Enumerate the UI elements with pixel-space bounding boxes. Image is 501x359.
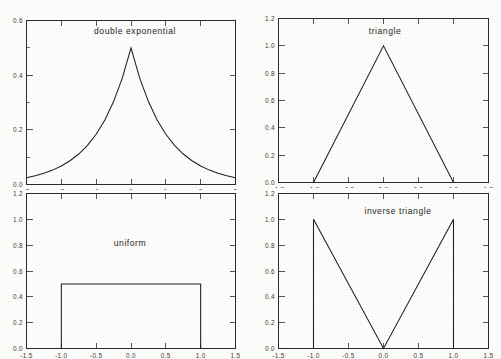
y-tick-label: 1.0 (13, 216, 23, 223)
data-series-curve (61, 284, 200, 349)
x-tick-label: 1.5 (231, 352, 240, 359)
data-series-curve (314, 219, 454, 348)
x-tick-label: 0.5 (161, 352, 171, 359)
x-axis-ticks (27, 21, 236, 185)
y-tick-label: 0.2 (13, 126, 23, 133)
y-axis-ticks (279, 194, 489, 349)
y-tick-label: 1.2 (265, 190, 275, 197)
figure-canvas: 0.0 0.2 0.4 0.6 -3 -2 -1 0 1 2 3 double … (0, 0, 501, 359)
y-tick-label: 1.2 (265, 15, 275, 22)
x-tick-label: -1.5 (272, 352, 285, 359)
y-tick-label: 0.8 (13, 242, 23, 249)
y-tick-label: 0.6 (13, 17, 23, 24)
panel-double-exponential: 0.0 0.2 0.4 0.6 -3 -2 -1 0 1 2 3 double … (0, 12, 240, 190)
y-tick-label: 1.0 (265, 216, 275, 223)
y-tick-label: 0.6 (13, 268, 23, 275)
y-tick-label: 0.2 (265, 152, 275, 159)
x-tick-label: 0.5 (414, 352, 424, 359)
x-tick-label: 1.0 (449, 352, 459, 359)
y-tick-label: 0.4 (13, 72, 23, 79)
x-axis-ticks (27, 194, 236, 349)
plot-double-exponential: 0.0 0.2 0.4 0.6 -3 -2 -1 0 1 2 3 double … (0, 12, 240, 190)
data-series-curve (27, 48, 236, 178)
panel-title: inverse triangle (364, 206, 431, 216)
x-tick-label: -0.5 (90, 352, 103, 359)
y-tick-label: 0.2 (13, 319, 23, 326)
y-axis-ticks (279, 19, 489, 183)
y-tick-label: 1.2 (13, 190, 23, 197)
axes-frame (279, 194, 489, 349)
y-tick-label: 0.6 (265, 97, 275, 104)
x-axis-ticks (279, 19, 489, 183)
x-tick-label: -1.0 (55, 352, 68, 359)
panel-title: uniform (114, 238, 147, 248)
panel-triangle: 0.0 0.2 0.4 0.6 0.8 1.0 1.2 -1.5 -1.0 -0… (252, 10, 497, 188)
y-tick-label: 0.4 (265, 124, 275, 131)
x-tick-label: 1.5 (484, 352, 494, 359)
y-tick-label: 0.4 (13, 293, 23, 300)
plot-triangle: 0.0 0.2 0.4 0.6 0.8 1.0 1.2 -1.5 -1.0 -0… (252, 10, 497, 188)
panel-inverse-triangle: 0.0 0.2 0.4 0.6 0.8 1.0 1.2 -1.5 -1.0 -0… (252, 185, 497, 359)
data-series-curve (314, 46, 454, 183)
x-tick-label: -0.5 (342, 352, 355, 359)
x-tick-label: 0.0 (379, 352, 389, 359)
y-axis-ticks (27, 21, 236, 185)
plot-uniform: 0.0 0.2 0.4 0.6 0.8 1.0 1.2 -1.5 -1.0 -0… (0, 185, 240, 359)
y-tick-label: 0.4 (265, 293, 275, 300)
panel-title: triangle (369, 26, 402, 36)
axes-frame (27, 194, 236, 349)
x-tick-label: -1.0 (307, 352, 320, 359)
x-tick-label: -1.5 (20, 352, 33, 359)
panel-title: double exponential (94, 26, 176, 36)
panel-uniform: 0.0 0.2 0.4 0.6 0.8 1.0 1.2 -1.5 -1.0 -0… (0, 185, 240, 359)
y-tick-label: 0.8 (265, 70, 275, 77)
y-tick-label: 0.8 (265, 242, 275, 249)
x-axis-ticks (279, 194, 489, 349)
y-tick-label: 0.6 (265, 268, 275, 275)
axes-frame (27, 21, 236, 185)
x-tick-label: 0.0 (126, 352, 136, 359)
x-tick-label: 1.0 (196, 352, 206, 359)
y-axis-ticks (27, 194, 236, 349)
axes-frame (279, 19, 489, 183)
plot-inverse-triangle: 0.0 0.2 0.4 0.6 0.8 1.0 1.2 -1.5 -1.0 -0… (252, 185, 497, 359)
y-tick-label: 0.2 (265, 319, 275, 326)
y-tick-label: 1.0 (265, 42, 275, 49)
